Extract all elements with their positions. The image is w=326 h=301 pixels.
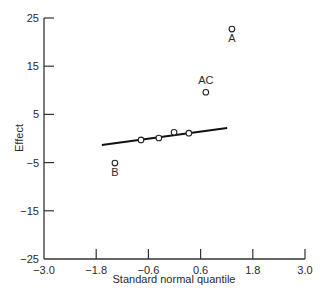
y-tick-label: 5	[33, 108, 39, 120]
point-label: B	[111, 166, 118, 178]
data-point-marker	[156, 135, 162, 141]
data-point-marker	[112, 160, 118, 166]
x-tick-label: 3.0	[297, 264, 312, 276]
x-tick-label: −1.8	[85, 264, 107, 276]
data-point-marker	[171, 129, 177, 135]
y-ticks: 25155−5−15−25	[20, 12, 54, 265]
data-point-marker	[203, 89, 209, 95]
x-axis-title: Standard normal quantile	[113, 273, 236, 285]
reference-line	[102, 128, 227, 145]
y-tick-label: 25	[27, 12, 39, 24]
data-point-marker	[138, 137, 144, 143]
axes	[44, 18, 305, 259]
normal-probability-plot: 25155−5−15−25 −3.0−1.8−0.60.61.83.0 Effe…	[0, 0, 326, 301]
data-point-marker	[186, 130, 192, 136]
point-label: AC	[198, 74, 213, 86]
y-tick-label: −5	[26, 157, 39, 169]
x-ticks: −3.0−1.8−0.60.61.83.0	[33, 249, 313, 276]
x-tick-label: −3.0	[33, 264, 55, 276]
y-axis-title: Effect	[13, 124, 25, 152]
data-point-marker	[229, 26, 235, 32]
y-tick-label: 15	[27, 60, 39, 72]
data-points: BACA	[111, 26, 236, 178]
y-tick-label: −15	[20, 205, 39, 217]
point-label: A	[228, 32, 236, 44]
x-tick-label: 1.8	[245, 264, 260, 276]
